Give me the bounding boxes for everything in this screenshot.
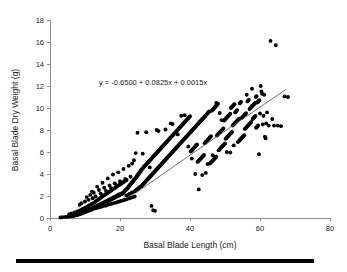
- data-point: [188, 114, 192, 118]
- x-axis-ticks: 020406080: [48, 218, 334, 233]
- data-point: [209, 134, 213, 138]
- data-point: [254, 114, 258, 118]
- data-point: [265, 110, 269, 114]
- data-point: [136, 131, 140, 135]
- scatter-plot: Basal Blade Dry Weight (g) 0246810121416…: [0, 0, 347, 272]
- y-tick-label: 10: [36, 104, 44, 113]
- data-point: [179, 114, 183, 118]
- data-point: [197, 187, 201, 191]
- data-point: [106, 176, 110, 180]
- data-point: [214, 101, 218, 105]
- data-point: [279, 124, 283, 128]
- data-point: [99, 192, 103, 196]
- figure-container: Basal Blade Dry Weight (g) 0246810121416…: [0, 0, 347, 272]
- data-point: [262, 93, 266, 97]
- data-point: [269, 39, 273, 43]
- data-point: [88, 193, 92, 197]
- x-tick-label: 80: [326, 224, 334, 233]
- data-point: [150, 204, 154, 208]
- data-point: [235, 108, 239, 112]
- data-point: [272, 124, 276, 128]
- data-point: [133, 194, 137, 198]
- data-point: [264, 136, 268, 140]
- data-point: [245, 93, 249, 97]
- data-point: [141, 152, 145, 156]
- data-point: [255, 94, 259, 98]
- data-point: [200, 173, 204, 177]
- data-point: [228, 151, 232, 155]
- data-point: [130, 162, 134, 166]
- data-point: [242, 133, 246, 137]
- data-point: [259, 84, 263, 88]
- data-point: [190, 157, 194, 161]
- data-point: [220, 118, 224, 122]
- data-point: [176, 132, 180, 136]
- data-point: [211, 153, 215, 157]
- data-point: [101, 181, 105, 185]
- data-point: [276, 124, 280, 128]
- data-point: [218, 111, 222, 115]
- data-point: [230, 130, 234, 134]
- data-point: [116, 170, 120, 174]
- x-tick-label: 40: [186, 224, 194, 233]
- data-point: [92, 191, 96, 195]
- data-point: [283, 95, 287, 99]
- data-point: [239, 100, 243, 104]
- data-points: [59, 39, 290, 219]
- y-tick-label: 6: [40, 148, 44, 157]
- data-point: [214, 155, 218, 159]
- data-point: [123, 177, 127, 181]
- y-tick-label: 12: [36, 82, 44, 91]
- data-point: [132, 158, 136, 162]
- data-point: [257, 152, 261, 156]
- data-point: [233, 102, 237, 106]
- data-point: [118, 179, 122, 183]
- equation-annotation: y = -0.6500 + 0.0825x + 0.0015x: [99, 78, 207, 87]
- data-point: [122, 167, 126, 171]
- regression-line: [136, 89, 287, 193]
- data-point: [256, 124, 260, 128]
- data-point: [164, 128, 168, 132]
- data-point: [186, 145, 190, 149]
- data-point: [262, 114, 266, 118]
- data-point: [270, 117, 274, 121]
- y-tick-label: 2: [40, 192, 44, 201]
- data-point: [257, 98, 261, 102]
- data-point: [223, 141, 227, 145]
- data-point: [127, 164, 131, 168]
- data-point: [94, 195, 98, 199]
- data-point: [111, 173, 115, 177]
- data-point: [183, 113, 187, 117]
- x-tick-label: 20: [116, 224, 124, 233]
- data-point: [144, 130, 148, 134]
- data-point: [97, 188, 101, 192]
- data-point: [148, 165, 152, 169]
- x-axis-title: Basal Blade Length (cm): [143, 240, 236, 250]
- data-point: [80, 201, 84, 205]
- y-tick-label: 16: [36, 38, 44, 47]
- data-point: [228, 112, 232, 116]
- data-point: [95, 185, 99, 189]
- y-tick-label: 18: [36, 16, 44, 25]
- data-point: [115, 184, 119, 188]
- data-point: [134, 151, 138, 155]
- data-point: [195, 143, 199, 147]
- y-axis-title: Basal Blade Dry Weight (g): [10, 69, 20, 172]
- data-point: [247, 98, 251, 102]
- x-tick-label: 0: [48, 224, 52, 233]
- data-point: [87, 198, 91, 202]
- data-point: [102, 186, 106, 190]
- data-point: [232, 143, 236, 147]
- data-point: [193, 172, 197, 176]
- data-point: [221, 127, 225, 131]
- data-point: [225, 150, 229, 154]
- data-point: [171, 122, 175, 126]
- data-point: [267, 124, 271, 128]
- data-point: [244, 111, 248, 115]
- y-tick-label: 14: [36, 60, 44, 69]
- data-point: [104, 189, 108, 193]
- data-point: [261, 123, 265, 127]
- data-point: [109, 186, 113, 190]
- footer-rule: [16, 259, 314, 263]
- y-tick-label: 4: [40, 170, 44, 179]
